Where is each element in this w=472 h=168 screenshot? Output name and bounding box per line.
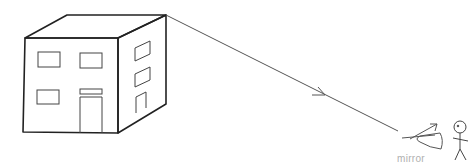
door-transom (80, 89, 102, 94)
side-door (136, 92, 146, 113)
building (23, 15, 166, 133)
window (80, 53, 102, 68)
window (38, 52, 60, 67)
mirror (402, 133, 442, 149)
light-ray (166, 15, 437, 139)
building-side-face (118, 15, 166, 133)
diagram-canvas (0, 0, 472, 168)
door (80, 97, 102, 133)
building-roof (25, 15, 166, 38)
building-windows (37, 41, 150, 133)
mirror-label: mirror (397, 153, 425, 164)
window (135, 67, 150, 87)
building-front-face (23, 38, 118, 133)
window (135, 41, 150, 61)
window (37, 90, 59, 104)
observer-stick-figure (453, 121, 468, 160)
